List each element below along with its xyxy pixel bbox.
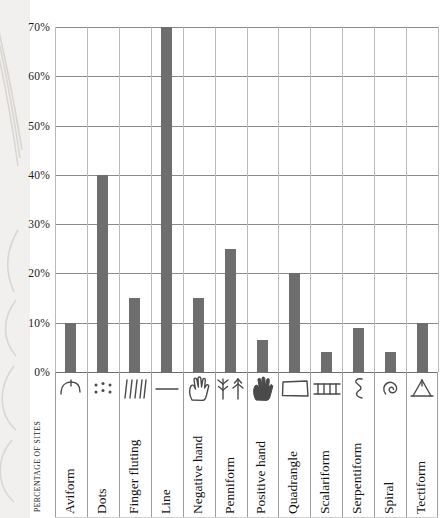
column-divider xyxy=(151,27,152,372)
category-column-quadrangle: Quadrangle xyxy=(278,372,310,518)
category-label: Spiral xyxy=(381,482,397,514)
bar-quadrangle xyxy=(289,273,300,372)
bar-line xyxy=(161,27,172,372)
column-divider xyxy=(215,27,216,372)
bar-positive-hand xyxy=(257,340,268,372)
column-divider xyxy=(119,27,120,372)
category-column-spiral: Spiral xyxy=(374,372,406,518)
category-label: Negative hand xyxy=(190,436,206,514)
category-column-positive-hand: Positive hand xyxy=(247,372,279,518)
plot-area xyxy=(55,27,438,372)
category-label: Finger fluting xyxy=(126,439,142,514)
category-label: Dots xyxy=(94,488,110,514)
bar-aviform xyxy=(65,323,76,372)
y-tick-label: 70% xyxy=(0,21,50,33)
category-label: Scalariform xyxy=(317,450,333,514)
bar-serpentiform xyxy=(353,328,364,372)
y-tick-label: 20% xyxy=(0,267,50,279)
x-axis-categories: AviformDotsFinger flutingLineNegative ha… xyxy=(55,372,438,518)
bar-dots xyxy=(97,175,108,372)
y-tick-label: 30% xyxy=(0,218,50,230)
category-column-scalariform: Scalariform xyxy=(310,372,342,518)
bar-negative-hand xyxy=(193,298,204,372)
column-divider xyxy=(183,27,184,372)
category-label: Serpentiform xyxy=(349,443,365,514)
y-tick-label: 50% xyxy=(0,120,50,132)
category-column-tectiform: Tectiform xyxy=(406,372,438,518)
bar-spiral xyxy=(385,352,396,372)
category-column-serpentiform: Serpentiform xyxy=(342,372,374,518)
category-column-line: Line xyxy=(151,372,183,518)
y-tick-label: 40% xyxy=(0,169,50,181)
category-label: Tectiform xyxy=(413,461,429,514)
category-label: Line xyxy=(158,489,174,514)
y-axis-title-text: PERCENTAGE OF SITES xyxy=(33,421,42,512)
y-tick-label: 60% xyxy=(0,70,50,82)
category-label: Aviform xyxy=(62,469,78,515)
category-column-finger-fluting: Finger fluting xyxy=(119,372,151,518)
category-label-wrap: Tectiform xyxy=(407,372,443,518)
column-divider xyxy=(406,27,407,372)
column-divider xyxy=(87,27,88,372)
column-divider xyxy=(438,27,439,372)
category-label: Quadrangle xyxy=(285,451,301,514)
bar-penniform xyxy=(225,249,236,372)
category-column-dots: Dots xyxy=(87,372,119,518)
bar-scalariform xyxy=(321,352,332,372)
column-divider xyxy=(342,27,343,372)
column-divider xyxy=(374,27,375,372)
y-tick-label: 10% xyxy=(0,317,50,329)
column-divider xyxy=(247,27,248,372)
bar-finger-fluting xyxy=(129,298,140,372)
category-column-negative-hand: Negative hand xyxy=(183,372,215,518)
category-label: Positive hand xyxy=(253,441,269,514)
column-divider xyxy=(278,27,279,372)
column-divider xyxy=(310,27,311,372)
bar-tectiform xyxy=(417,323,428,372)
category-column-aviform: Aviform xyxy=(55,372,87,518)
column-divider xyxy=(55,27,56,372)
category-column-penniform: Penniform xyxy=(215,372,247,518)
category-label: Penniform xyxy=(222,457,238,514)
